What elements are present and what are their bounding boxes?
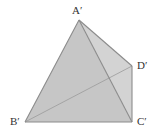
vertex-label-d: D′ — [137, 60, 147, 71]
vertex-label-b: B′ — [10, 116, 20, 127]
vertex-label-c: C′ — [137, 116, 147, 127]
vertex-label-a: A′ — [72, 5, 82, 16]
tetrahedron-diagram — [0, 0, 158, 135]
